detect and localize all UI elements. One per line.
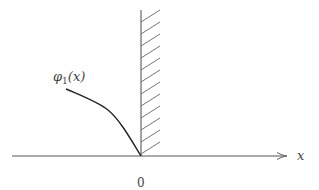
wall-diagram: φ1(x) x 0 [0,0,319,190]
function-label: φ1(x) [53,69,85,86]
wall-hatching [141,10,160,154]
origin-label: 0 [137,176,145,190]
x-axis-label: x [297,148,305,163]
phi1-curve [66,89,141,156]
